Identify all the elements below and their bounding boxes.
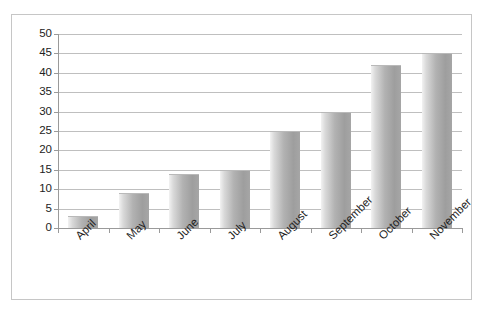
y-tick-mark [54, 209, 59, 210]
y-tick-label: 35 [26, 86, 52, 98]
x-tick-mark [311, 228, 312, 233]
y-tick-label: 15 [26, 164, 52, 176]
x-tick-mark [260, 228, 261, 233]
y-tick-mark [54, 92, 59, 93]
y-axis-tick-labels: 05101520253035404550 [20, 34, 52, 228]
gridline [58, 92, 462, 93]
y-tick-mark [54, 73, 59, 74]
y-tick-mark [54, 112, 59, 113]
y-tick-label: 30 [26, 106, 52, 118]
x-tick-mark [412, 228, 413, 233]
x-tick-mark [159, 228, 160, 233]
y-tick-label: 10 [26, 183, 52, 195]
y-tick-label: 50 [26, 28, 52, 40]
y-tick-mark [54, 228, 59, 229]
bar [422, 53, 452, 228]
bar [321, 112, 351, 228]
gridline [58, 131, 462, 132]
y-tick-mark [54, 170, 59, 171]
x-axis-tick-labels: AprilMayJuneJulyAugustSeptemberOctoberNo… [58, 234, 463, 300]
gridline [58, 53, 462, 54]
y-tick-label: 45 [26, 48, 52, 60]
y-tick-mark [54, 189, 59, 190]
plot-area [58, 34, 462, 228]
x-tick-mark [210, 228, 211, 233]
gridline [58, 34, 462, 35]
gridline [58, 73, 462, 74]
chart-figure: 05101520253035404550 AprilMayJuneJulyAug… [11, 14, 472, 300]
bar [371, 65, 401, 228]
gridline [58, 170, 462, 171]
x-tick-mark [462, 228, 463, 233]
y-tick-label: 5 [26, 203, 52, 215]
x-tick-mark [109, 228, 110, 233]
y-tick-mark [54, 150, 59, 151]
bar [220, 170, 250, 228]
y-tick-mark [54, 131, 59, 132]
y-tick-label: 20 [26, 145, 52, 157]
gridline [58, 189, 462, 190]
gridline [58, 112, 462, 113]
y-tick-label: 0 [26, 222, 52, 234]
y-tick-label: 25 [26, 125, 52, 137]
y-tick-label: 40 [26, 67, 52, 79]
y-tick-mark [54, 34, 59, 35]
x-tick-mark [361, 228, 362, 233]
gridline [58, 150, 462, 151]
y-tick-mark [54, 53, 59, 54]
